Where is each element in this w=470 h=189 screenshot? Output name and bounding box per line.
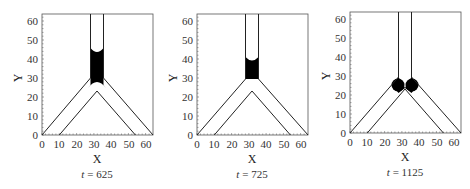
x-axis-label: X [93,152,102,166]
svg-text:60: 60 [449,136,461,148]
svg-text:10: 10 [362,136,374,148]
plot-t725: 0 10 20 30 40 50 60 0 10 20 30 40 50 60 … [155,0,312,189]
y-tick-labels: 0 10 20 30 40 50 60 [27,15,39,141]
svg-text:10: 10 [335,108,347,120]
x-axis-label: X [248,152,257,166]
plot-area [197,14,308,135]
y-axis-label: Y [11,73,25,82]
panel-t1125: 0 10 20 30 40 50 60 0 10 20 30 40 50 60 … [308,0,465,189]
svg-text:20: 20 [182,91,194,103]
svg-text:10: 10 [54,138,66,150]
svg-text:30: 30 [335,70,347,82]
y-axis-label: Y [319,71,333,80]
x-tick-labels: 0 10 20 30 40 50 60 [194,138,307,150]
svg-text:30: 30 [27,72,39,84]
x-tick-labels: 0 10 20 30 40 50 60 [347,136,460,148]
svg-text:40: 40 [106,138,118,150]
svg-text:0: 0 [347,136,353,148]
svg-text:50: 50 [432,136,444,148]
svg-text:50: 50 [27,34,39,46]
svg-text:20: 20 [72,138,84,150]
svg-text:60: 60 [27,15,39,27]
svg-text:60: 60 [296,138,308,150]
svg-text:10: 10 [27,110,39,122]
svg-text:0: 0 [39,138,45,150]
time-caption: t = 625 [47,168,147,180]
svg-text:0: 0 [33,129,39,141]
svg-text:20: 20 [227,138,239,150]
plot-t625: 0 10 20 30 40 50 60 0 10 20 30 40 50 60 … [0,0,157,189]
y-tick-labels: 0 10 20 30 40 50 60 [182,15,194,141]
svg-text:10: 10 [209,138,221,150]
time-caption: t = 1125 [355,166,455,178]
x-tick-labels: 0 10 20 30 40 50 60 [39,138,152,150]
svg-text:20: 20 [380,136,392,148]
svg-text:30: 30 [244,138,256,150]
svg-text:40: 40 [182,53,194,65]
plot-t1125: 0 10 20 30 40 50 60 0 10 20 30 40 50 60 … [308,0,470,189]
x-axis-label: X [401,150,410,164]
svg-text:30: 30 [89,138,101,150]
svg-text:60: 60 [182,15,194,27]
svg-text:60: 60 [141,138,153,150]
svg-text:10: 10 [182,110,194,122]
time-caption: t = 725 [202,168,302,180]
svg-text:50: 50 [124,138,136,150]
svg-text:40: 40 [414,136,426,148]
svg-text:40: 40 [261,138,273,150]
svg-text:20: 20 [335,89,347,101]
svg-text:0: 0 [188,129,194,141]
svg-text:40: 40 [335,51,347,63]
svg-text:30: 30 [397,136,409,148]
svg-text:0: 0 [341,127,347,139]
panel-t625: 0 10 20 30 40 50 60 0 10 20 30 40 50 60 … [0,0,157,189]
panel-t725: 0 10 20 30 40 50 60 0 10 20 30 40 50 60 … [155,0,312,189]
svg-text:60: 60 [335,13,347,25]
svg-text:40: 40 [27,53,39,65]
svg-text:50: 50 [182,34,194,46]
plot-area [350,12,461,133]
y-tick-labels: 0 10 20 30 40 50 60 [335,13,347,139]
svg-text:20: 20 [27,91,39,103]
svg-text:50: 50 [335,32,347,44]
svg-text:0: 0 [194,138,200,150]
y-axis-label: Y [166,73,180,82]
plot-area [42,14,153,135]
svg-text:30: 30 [182,72,194,84]
svg-text:50: 50 [279,138,291,150]
